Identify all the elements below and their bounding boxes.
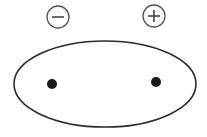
enclosing-ellipse <box>14 41 196 127</box>
positive-charge-dot <box>151 77 161 87</box>
diagram-canvas <box>0 0 207 137</box>
negative-sign-marker <box>47 6 69 28</box>
positive-sign-marker <box>143 5 165 27</box>
negative-charge-dot <box>47 79 57 89</box>
